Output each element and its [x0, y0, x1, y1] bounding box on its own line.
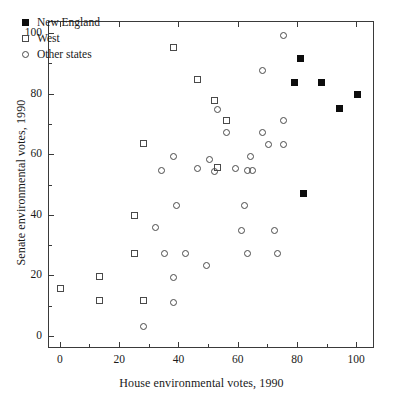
- x-tick-label: 80: [291, 354, 303, 366]
- data-point: [194, 165, 201, 172]
- data-point: [247, 153, 254, 160]
- data-point: [354, 91, 361, 98]
- data-point: [140, 140, 147, 147]
- x-tick-major: [60, 342, 61, 348]
- legend: New EnglandWestOther states: [20, 14, 100, 62]
- x-tick-label: 40: [173, 354, 185, 366]
- x-tick-major: [238, 342, 239, 348]
- legend-item: Other states: [20, 46, 100, 62]
- data-point: [249, 167, 256, 174]
- x-tick-major: [119, 342, 120, 348]
- x-tick-top: [238, 21, 239, 27]
- x-tick-label: 60: [232, 354, 244, 366]
- data-point: [280, 32, 287, 39]
- data-point: [238, 227, 245, 234]
- x-tick-minor: [267, 344, 268, 348]
- data-point: [259, 129, 266, 136]
- data-point: [140, 323, 147, 330]
- y-tick-label: 0: [14, 330, 42, 342]
- data-point: [280, 141, 287, 148]
- data-point: [271, 227, 278, 234]
- x-tick-top: [356, 21, 357, 27]
- data-point: [265, 141, 272, 148]
- data-point: [318, 79, 325, 86]
- open-circle-icon: [22, 51, 29, 58]
- filled-square-icon: [22, 19, 29, 26]
- data-point: [241, 202, 248, 209]
- legend-item-label: New England: [37, 16, 100, 28]
- data-point: [170, 153, 177, 160]
- y-tick-major: [48, 154, 54, 155]
- x-tick-top: [119, 21, 120, 27]
- data-point: [152, 224, 159, 231]
- x-tick-label: 20: [113, 354, 125, 366]
- data-point: [232, 165, 239, 172]
- data-point: [211, 168, 218, 175]
- data-point: [300, 190, 307, 197]
- data-point: [96, 273, 103, 280]
- data-point: [170, 44, 177, 51]
- data-point: [211, 97, 218, 104]
- x-tick-major: [178, 342, 179, 348]
- x-tick-top: [178, 21, 179, 27]
- y-tick-minor: [48, 124, 52, 125]
- data-point: [170, 299, 177, 306]
- data-point: [206, 156, 213, 163]
- y-tick-minor: [48, 306, 52, 307]
- x-tick-major: [356, 342, 357, 348]
- data-point: [173, 202, 180, 209]
- data-point: [161, 250, 168, 257]
- data-point: [223, 117, 230, 124]
- y-tick-minor: [48, 63, 52, 64]
- y-tick-major: [48, 94, 54, 95]
- x-tick-top: [297, 21, 298, 27]
- data-point: [214, 106, 221, 113]
- y-tick-minor: [48, 245, 52, 246]
- x-tick-label: 100: [348, 354, 365, 366]
- legend-item: New England: [20, 14, 100, 30]
- data-point: [170, 274, 177, 281]
- data-point: [297, 55, 304, 62]
- data-point: [223, 129, 230, 136]
- x-tick-minor: [327, 344, 328, 348]
- x-tick-minor: [149, 344, 150, 348]
- legend-item-label: Other states: [37, 48, 92, 60]
- y-tick-major: [48, 275, 54, 276]
- data-point: [158, 167, 165, 174]
- data-point: [96, 297, 103, 304]
- data-point: [244, 250, 251, 257]
- y-tick-major: [48, 336, 54, 337]
- plot-area: [49, 22, 373, 347]
- data-point: [131, 212, 138, 219]
- y-axis-title: Senate environmental votes, 1990: [14, 68, 29, 298]
- data-point: [274, 250, 281, 257]
- x-tick-minor: [89, 344, 90, 348]
- data-point: [140, 297, 147, 304]
- x-tick-major: [297, 342, 298, 348]
- x-tick-label: 0: [57, 354, 63, 366]
- data-point: [336, 105, 343, 112]
- data-point: [182, 250, 189, 257]
- legend-item: West: [20, 30, 100, 46]
- data-point: [194, 76, 201, 83]
- legend-item-label: West: [37, 32, 60, 44]
- scatter-plot-figure: 020406080100020406080100 House environme…: [0, 0, 403, 400]
- data-point: [203, 262, 210, 269]
- y-tick-major: [48, 215, 54, 216]
- data-point: [57, 285, 64, 292]
- x-axis-title: House environmental votes, 1990: [0, 376, 403, 391]
- data-point: [131, 250, 138, 257]
- open-square-icon: [22, 35, 29, 42]
- y-tick-minor: [48, 185, 52, 186]
- data-point: [259, 67, 266, 74]
- plot-frame: [48, 21, 374, 348]
- x-tick-minor: [208, 344, 209, 348]
- data-point: [291, 79, 298, 86]
- data-point: [280, 117, 287, 124]
